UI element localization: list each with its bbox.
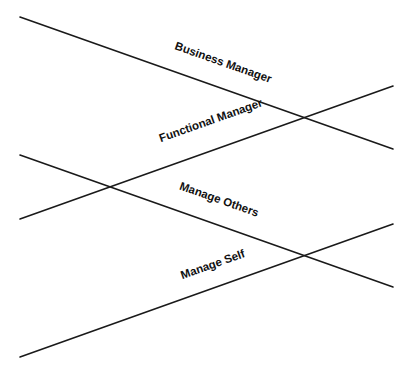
lines-layer [20, 17, 393, 357]
business-manager-label: Business Manager [173, 40, 273, 85]
manage-self-label: Manage Self [179, 247, 246, 281]
career-transition-diagram: Business ManagerFunctional ManagerManage… [0, 0, 410, 372]
manage-others-label: Manage Others [178, 180, 260, 219]
manage-self-line [20, 224, 393, 357]
business-manager-line [20, 17, 393, 149]
labels-layer: Business ManagerFunctional ManagerManage… [157, 40, 273, 281]
